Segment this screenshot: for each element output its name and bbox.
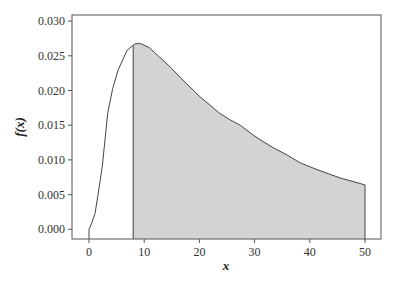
y-tick-label: 0.015	[38, 118, 65, 132]
density-chart: 01020304050 0.0000.0050.0100.0150.0200.0…	[0, 0, 399, 283]
y-tick-label: 0.030	[38, 14, 65, 28]
y-axis-ticks: 0.0000.0050.0100.0150.0200.0250.030	[38, 14, 72, 236]
x-tick-label: 10	[138, 245, 150, 259]
x-tick-label: 30	[249, 245, 261, 259]
x-tick-label: 50	[359, 245, 371, 259]
y-tick-label: 0.020	[38, 84, 65, 98]
shaded-area	[133, 43, 365, 239]
x-axis-ticks: 01020304050	[86, 239, 371, 259]
x-axis-label: x	[222, 258, 230, 273]
y-tick-label: 0.010	[38, 153, 65, 167]
y-tick-label: 0.005	[38, 188, 65, 202]
y-tick-label: 0.025	[38, 49, 65, 63]
x-tick-label: 40	[304, 245, 316, 259]
x-tick-label: 20	[193, 245, 205, 259]
y-axis-label: f(x)	[12, 117, 27, 137]
y-tick-label: 0.000	[38, 222, 65, 236]
shaded-region	[133, 43, 365, 239]
x-tick-label: 0	[86, 245, 92, 259]
